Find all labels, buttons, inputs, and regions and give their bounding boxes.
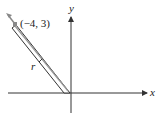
vector-name-label: r — [31, 60, 36, 72]
y-axis-label: y — [68, 2, 74, 14]
vector-arrowhead-icon — [6, 13, 12, 18]
coordinate-diagram: (−4, 3) r y x — [0, 0, 162, 118]
x-axis-label: x — [149, 86, 155, 98]
point-marker — [13, 22, 17, 26]
point-label: (−4, 3) — [20, 17, 50, 30]
